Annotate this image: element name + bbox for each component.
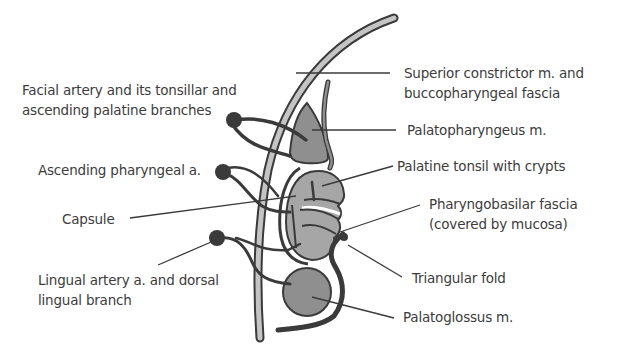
label-facial-artery: Facial artery and its tonsillar and asce…	[22, 80, 237, 120]
label-ascending-pharyngeal-artery: Ascending pharyngeal a.	[38, 160, 201, 180]
label-line: Ascending pharyngeal a.	[38, 160, 201, 180]
label-line: Capsule	[62, 209, 115, 229]
palatoglossus-muscle	[283, 268, 331, 316]
label-line: Triangular fold	[412, 268, 506, 288]
label-triangular-fold: Triangular fold	[412, 268, 506, 288]
label-line: ascending palatine branches	[22, 100, 237, 120]
label-line: Superior constrictor m. and	[404, 63, 584, 83]
label-palatoglossus: Palatoglossus m.	[403, 307, 513, 327]
tonsil-anatomy-diagram: Facial artery and its tonsillar and asce…	[0, 0, 627, 352]
label-pharyngobasilar-fascia: Pharyngobasilar fascia (covered by mucos…	[429, 194, 578, 234]
label-superior-constrictor: Superior constrictor m. and buccopharyng…	[404, 63, 584, 103]
label-palatine-tonsil: Palatine tonsil with crypts	[397, 156, 565, 176]
label-line: Palatine tonsil with crypts	[397, 156, 565, 176]
label-line: Facial artery and its tonsillar and	[22, 80, 237, 100]
label-line: Palatoglossus m.	[403, 307, 513, 327]
label-line: (covered by mucosa)	[429, 214, 578, 234]
label-line: Lingual artery a. and dorsal	[38, 270, 219, 290]
label-lingual-artery: Lingual artery a. and dorsal lingual bra…	[38, 270, 219, 310]
label-capsule: Capsule	[62, 209, 115, 229]
label-line: buccopharyngeal fascia	[404, 83, 584, 103]
label-line: lingual branch	[38, 290, 219, 310]
label-palatopharyngeus: Palatopharyngeus m.	[407, 120, 546, 140]
label-line: Pharyngobasilar fascia	[429, 194, 578, 214]
label-line: Palatopharyngeus m.	[407, 120, 546, 140]
